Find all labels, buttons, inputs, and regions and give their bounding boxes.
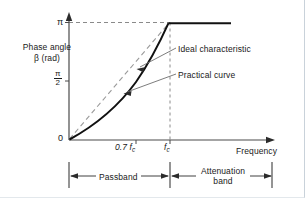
pi-half-numerator: π — [54, 70, 62, 78]
origin-label-zero: 0 — [58, 133, 63, 143]
attenuation-left-arrowhead — [171, 173, 179, 179]
x-tick-07fc-subscript: c — [132, 146, 135, 153]
passband-left-arrowhead — [70, 173, 78, 179]
annotation-ideal-characteristic: Ideal characteristic — [178, 44, 251, 54]
span-label-passband: Passband — [96, 172, 141, 182]
x-tick-label-fc: fc — [164, 142, 170, 155]
annotation-practical-curve: Practical curve — [178, 70, 235, 80]
y-tick-label-pi-half: π 2 — [54, 70, 62, 87]
y-tick-label-pi: π — [57, 17, 63, 27]
attenuation-right-arrowhead — [264, 173, 272, 179]
passband-right-arrowhead — [161, 173, 169, 179]
x-tick-07fc-main: 0.7 f — [115, 142, 132, 152]
ideal-characteristic-line — [70, 23, 170, 139]
pi-half-denominator: 2 — [54, 78, 62, 87]
x-tick-label-07fc: 0.7 fc — [115, 142, 135, 155]
y-axis-label: Phase angle β (rad) — [8, 42, 86, 64]
phase-angle-frequency-figure: Phase angle β (rad) π π 2 0 0.7 fc fc Fr… — [0, 0, 305, 198]
figure-canvas — [0, 0, 305, 198]
ideal-leader-arrowhead — [137, 67, 145, 72]
y-axis-label-unit: (rad) — [42, 53, 60, 63]
x-axis-label: Frequency — [236, 146, 277, 156]
span-label-attenuation-band: Attenuation band — [196, 166, 250, 186]
pi-half-fraction: π 2 — [54, 70, 62, 87]
ideal-leader-line — [140, 48, 176, 67]
y-axis-arrowhead — [66, 12, 72, 21]
x-tick-fc-subscript: c — [166, 146, 169, 153]
y-axis-label-line1: Phase angle — [23, 42, 71, 52]
x-axis-arrowhead — [266, 137, 275, 143]
y-axis-label-symbol: β — [34, 53, 39, 63]
